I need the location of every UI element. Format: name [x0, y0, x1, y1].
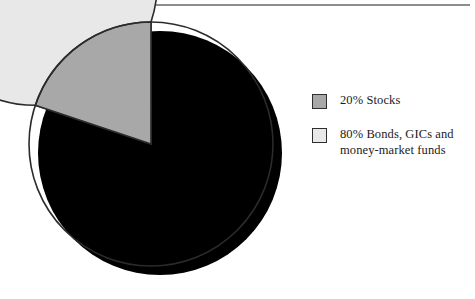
legend-item-stocks[interactable]: 20% Stocks: [312, 92, 472, 109]
legend-swatch-stocks: [312, 94, 327, 109]
pie-chart-svg: [0, 0, 300, 299]
legend-item-bonds[interactable]: 80% Bonds, GICs and money-market funds: [312, 126, 472, 158]
legend-label-stocks: 20% Stocks: [340, 92, 400, 108]
legend-label-bonds: 80% Bonds, GICs and money-market funds: [340, 126, 454, 158]
pie-chart-area: [0, 0, 300, 299]
legend-swatch-bonds: [312, 128, 327, 143]
chart-figure: 20% Stocks 80% Bonds, GICs and money-mar…: [0, 0, 475, 299]
legend: 20% Stocks 80% Bonds, GICs and money-mar…: [312, 92, 472, 175]
